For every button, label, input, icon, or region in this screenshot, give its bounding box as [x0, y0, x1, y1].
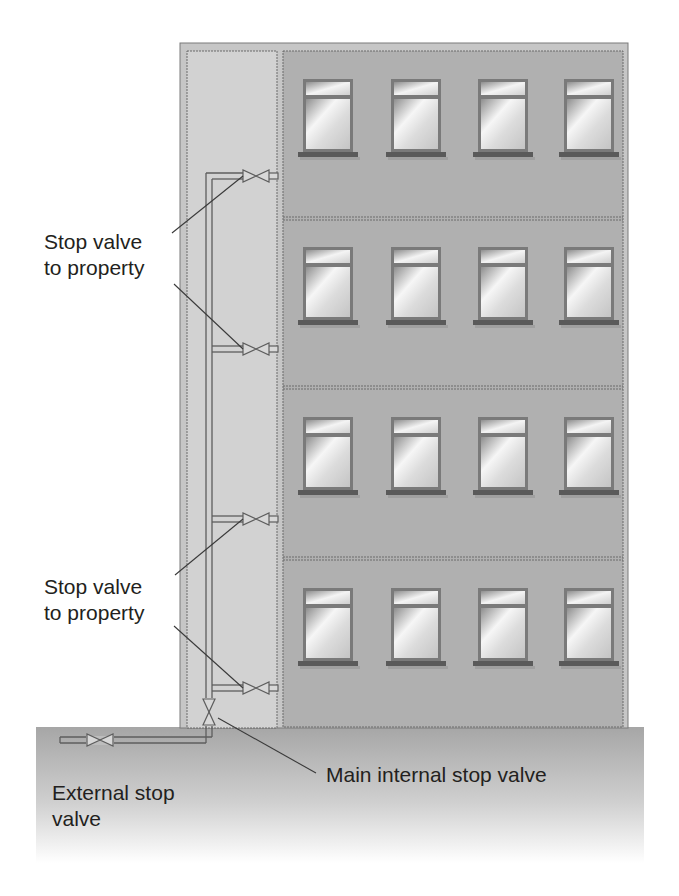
label-stop-valve-upper-line1: Stop valve — [44, 229, 144, 255]
label-external-line1: External stop — [52, 780, 175, 806]
label-external-line2: valve — [52, 806, 175, 832]
riser-column — [187, 51, 277, 728]
label-stop-valve-lower-line2: to property — [44, 600, 144, 626]
label-main-internal-stop-valve: Main internal stop valve — [326, 762, 547, 788]
label-stop-valve-lower: Stop valve to property — [44, 574, 144, 626]
label-stop-valve-lower-line1: Stop valve — [44, 574, 144, 600]
label-external-stop-valve: External stop valve — [52, 780, 175, 832]
label-stop-valve-upper-line2: to property — [44, 255, 144, 281]
label-stop-valve-upper: Stop valve to property — [44, 229, 144, 281]
